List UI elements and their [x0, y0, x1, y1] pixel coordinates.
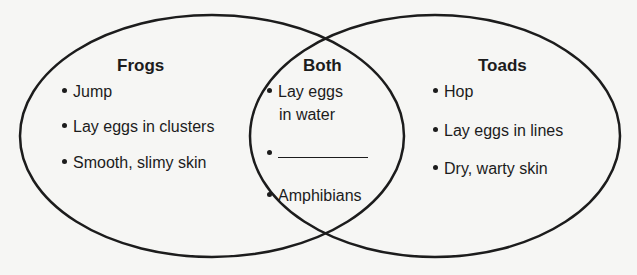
- toads-item: Dry, warty skin: [433, 160, 548, 178]
- both-item: Amphibians: [267, 187, 362, 205]
- bullet-icon: [267, 88, 272, 93]
- frogs-item: Smooth, slimy skin: [62, 154, 206, 172]
- both-item: Lay eggs: [267, 83, 343, 101]
- bullet-icon: [267, 150, 272, 155]
- bullet-icon: [62, 159, 67, 164]
- bullet-icon: [267, 192, 272, 197]
- fill-in-blank: [278, 143, 368, 158]
- frogs-circle: [20, 15, 404, 257]
- bullet-icon: [433, 165, 438, 170]
- bullet-icon: [433, 88, 438, 93]
- toads-item: Lay eggs in lines: [433, 122, 563, 140]
- bullet-icon: [62, 123, 67, 128]
- toads-item: Hop: [433, 83, 473, 101]
- both-title: Both: [303, 56, 342, 76]
- toads-title: Toads: [478, 56, 527, 76]
- frogs-title: Frogs: [117, 56, 164, 76]
- frogs-item: Jump: [62, 83, 112, 101]
- both-blank-item: [267, 145, 368, 163]
- bullet-icon: [433, 127, 438, 132]
- frogs-item: Lay eggs in clusters: [62, 118, 214, 136]
- bullet-icon: [62, 88, 67, 93]
- both-item-continuation: in water: [279, 106, 335, 124]
